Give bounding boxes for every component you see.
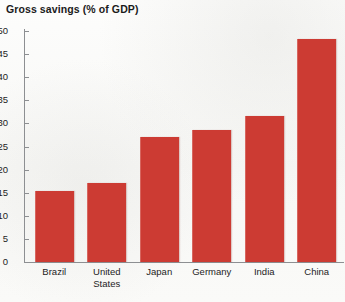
x-axis-category-label: Brazil xyxy=(28,266,81,278)
bar-chart-plot: 05101520253035404550 BrazilUnited States… xyxy=(0,0,345,302)
x-axis-category-label: Germany xyxy=(186,266,239,278)
x-axis-category-label: Japan xyxy=(133,266,186,278)
bar xyxy=(87,183,126,262)
bar xyxy=(192,130,231,262)
bar xyxy=(297,39,336,262)
bar xyxy=(245,116,284,262)
bars-layer xyxy=(0,0,345,302)
bar xyxy=(140,137,179,262)
x-axis-category-label: India xyxy=(238,266,291,278)
x-axis-category-label: United States xyxy=(81,266,134,289)
x-axis-category-label: China xyxy=(291,266,344,278)
bar xyxy=(35,191,74,262)
